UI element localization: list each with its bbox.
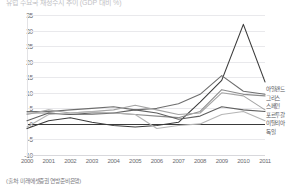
legend-item[interactable]: 이탈리아 [266, 119, 301, 128]
legend-item[interactable]: 포르투갈 [266, 111, 301, 120]
legend-item-label: 그리스 [266, 94, 280, 103]
chart-legend: 아일랜드그리스스페인포르투갈이탈리아독일 [266, 85, 301, 137]
chart-container: 유럽 주요국 재정수지 추이 (GDP 대비 %) 35302520151050… [0, 0, 301, 190]
series-lines [27, 15, 265, 155]
legend-item[interactable]: 스페인 [266, 102, 301, 111]
x-axis-tick-label: 2011 [252, 158, 278, 164]
legend-item[interactable]: 아일랜드 [266, 85, 301, 94]
legend-item-label: 포르투갈 [266, 111, 285, 120]
legend-item-label: 스페인 [266, 102, 280, 111]
legend-item[interactable]: 그리스 [266, 94, 301, 103]
legend-item[interactable]: 독일 [266, 128, 301, 137]
legend-item-label: 이탈리아 [266, 119, 285, 128]
source-note: (출처: 미래에셋증권 연방준비은행) [6, 176, 81, 185]
x-axis-line [27, 155, 265, 156]
plot-area [27, 15, 265, 155]
legend-item-label: 아일랜드 [266, 85, 285, 94]
legend-item-label: 독일 [266, 128, 275, 137]
chart-title: 유럽 주요국 재정수지 추이 (GDP 대비 %) [6, 0, 122, 7]
